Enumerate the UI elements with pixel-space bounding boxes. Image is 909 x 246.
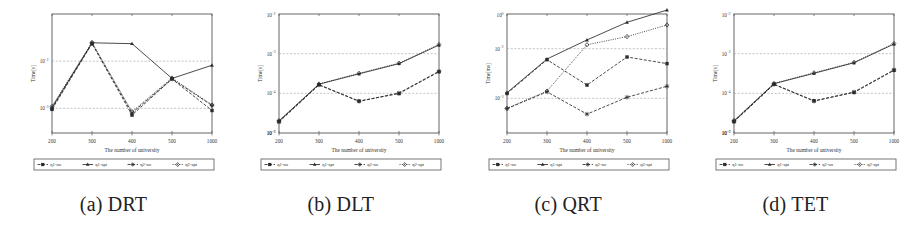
plot-area: 10−210−310−410−510−72003004005001000The … <box>227 0 454 192</box>
svg-text:10−4: 10−4 <box>722 90 731 96</box>
svg-text:q1-apt: q1-apt <box>777 162 789 167</box>
svg-text:200: 200 <box>730 138 738 144</box>
svg-text:10−3: 10−3 <box>722 50 731 56</box>
svg-text:500: 500 <box>623 138 631 144</box>
svg-text:500: 500 <box>395 138 403 144</box>
svg-text:The number of university: The number of university <box>332 147 387 153</box>
svg-text:10−3: 10−3 <box>40 105 49 111</box>
line-chart-svg: 10−210−310−410−510−72003004005001000The … <box>227 0 454 192</box>
svg-text:400: 400 <box>128 138 136 144</box>
figure-panel-row: 10−310−22003004005001000The number of un… <box>0 0 909 246</box>
svg-text:1000: 1000 <box>889 138 900 144</box>
svg-text:10−2: 10−2 <box>40 58 49 64</box>
svg-text:400: 400 <box>810 138 818 144</box>
svg-text:1000: 1000 <box>207 138 218 144</box>
chart-panel-drt: 10−310−22003004005001000The number of un… <box>0 0 227 246</box>
svg-text:300: 300 <box>315 138 323 144</box>
panel-caption: (b) DLT <box>307 194 374 214</box>
svg-text:q2-no: q2-no <box>368 162 379 167</box>
svg-text:q2-no: q2-no <box>822 162 833 167</box>
svg-text:10−2: 10−2 <box>494 45 503 51</box>
svg-text:10−7: 10−7 <box>267 130 276 136</box>
line-chart-svg: 10−210010−32003004005001000The number of… <box>455 0 682 192</box>
plot-area: 10−210−310−510−410−72003004005001000The … <box>682 0 909 192</box>
svg-text:q2-apt: q2-apt <box>185 162 197 167</box>
svg-text:10−2: 10−2 <box>722 12 731 18</box>
svg-text:q2-apt: q2-apt <box>640 162 652 167</box>
svg-text:10−4: 10−4 <box>267 90 276 96</box>
svg-text:Time[ms]: Time[ms] <box>485 63 492 84</box>
svg-text:400: 400 <box>355 138 363 144</box>
svg-text:200: 200 <box>48 138 56 144</box>
svg-text:q2-no: q2-no <box>595 162 606 167</box>
svg-text:200: 200 <box>503 138 511 144</box>
svg-text:200: 200 <box>275 138 283 144</box>
svg-text:300: 300 <box>88 138 96 144</box>
panel-caption: (c) QRT <box>534 194 601 214</box>
svg-text:The number of university: The number of university <box>559 147 614 153</box>
panel-caption: (a) DRT <box>80 194 147 214</box>
svg-text:300: 300 <box>770 138 778 144</box>
plot-area: 10−310−22003004005001000The number of un… <box>0 0 227 192</box>
chart-panel-dlt: 10−210−310−410−510−72003004005001000The … <box>227 0 454 246</box>
svg-text:100: 100 <box>496 12 503 18</box>
line-chart-svg: 10−210−310−510−410−72003004005001000The … <box>682 0 909 192</box>
svg-text:q1-apt: q1-apt <box>550 162 562 167</box>
svg-text:The number of university: The number of university <box>105 147 160 153</box>
svg-text:q2-no: q2-no <box>140 162 151 167</box>
svg-text:q1-apt: q1-apt <box>323 162 335 167</box>
svg-text:500: 500 <box>168 138 176 144</box>
svg-text:Time[s]: Time[s] <box>257 65 264 82</box>
svg-text:q1-no: q1-no <box>50 162 61 167</box>
chart-panel-qrt: 10−210010−32003004005001000The number of… <box>455 0 682 246</box>
svg-text:q2-apt: q2-apt <box>867 162 879 167</box>
svg-text:Time[s]: Time[s] <box>712 65 719 82</box>
svg-text:500: 500 <box>850 138 858 144</box>
svg-text:10−3: 10−3 <box>267 50 276 56</box>
svg-text:q1-no: q1-no <box>505 162 516 167</box>
svg-text:1000: 1000 <box>434 138 445 144</box>
svg-text:300: 300 <box>543 138 551 144</box>
svg-text:The number of university: The number of university <box>787 147 842 153</box>
svg-text:1000: 1000 <box>661 138 672 144</box>
svg-text:q1-apt: q1-apt <box>95 162 107 167</box>
svg-text:10−7: 10−7 <box>722 130 731 136</box>
svg-text:400: 400 <box>583 138 591 144</box>
svg-text:q2-apt: q2-apt <box>413 162 425 167</box>
plot-area: 10−210010−32003004005001000The number of… <box>455 0 682 192</box>
svg-text:10−2: 10−2 <box>267 12 276 18</box>
svg-text:10−3: 10−3 <box>494 95 503 101</box>
panel-caption: (d) TET <box>762 194 828 214</box>
chart-panel-tet: 10−210−310−510−410−72003004005001000The … <box>682 0 909 246</box>
line-chart-svg: 10−310−22003004005001000The number of un… <box>0 0 227 192</box>
svg-text:Time[s]: Time[s] <box>30 65 37 82</box>
svg-text:q1-no: q1-no <box>278 162 289 167</box>
svg-text:q1-no: q1-no <box>732 162 743 167</box>
